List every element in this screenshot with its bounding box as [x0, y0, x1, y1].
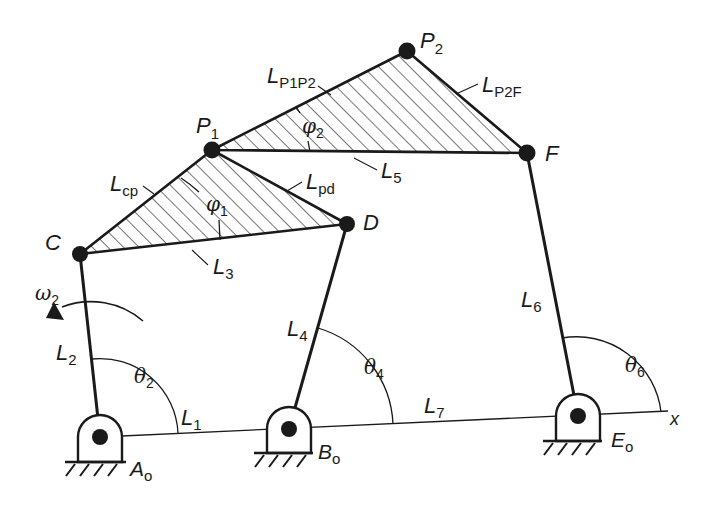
label-Lpd: Lpd: [306, 169, 335, 197]
label-Bo: Bo: [318, 440, 340, 467]
six-bar-linkage-diagram: P2 P1 F D C Ao Bo Eo x LP1P2 LP2F L5 Lcp…: [0, 0, 708, 505]
label-theta2: θ2: [134, 364, 154, 391]
label-L3: L3: [213, 254, 234, 282]
link-L6: [527, 153, 578, 416]
leader-Lcp: [143, 186, 154, 194]
leader-L3: [192, 250, 208, 265]
label-Eo: Eo: [611, 428, 633, 455]
label-P2: P2: [420, 28, 443, 57]
joint-P2: [399, 43, 416, 60]
omega2-arc: [62, 302, 143, 321]
label-L-P1P2: LP1P2: [267, 63, 316, 91]
leader-L5: [354, 158, 377, 170]
joint-D: [339, 216, 355, 232]
label-F: F: [545, 141, 560, 166]
label-P1: P1: [196, 113, 219, 142]
joint-F: [519, 145, 536, 162]
label-D: D: [363, 210, 379, 235]
link-L2: [80, 254, 100, 437]
coupler-triangle-2: [212, 51, 527, 153]
label-L6: L6: [521, 287, 542, 315]
joint-C: [72, 246, 88, 262]
label-L7: L7: [424, 393, 445, 421]
joint-Bo: [281, 421, 297, 437]
joint-Eo: [570, 408, 586, 424]
label-omega2: ω2: [35, 281, 59, 308]
joint-P1: [204, 142, 221, 159]
label-theta6: θ6: [625, 353, 645, 380]
label-Ao: Ao: [128, 457, 152, 484]
ground-pivot-Eo: [543, 394, 602, 455]
label-L1: L1: [181, 405, 202, 433]
label-x-axis: x: [669, 409, 680, 429]
leader-L-P2F: [456, 84, 478, 94]
label-theta4: θ4: [364, 355, 384, 382]
label-Lcp: Lcp: [110, 171, 138, 199]
ground-pivot-Ao: [65, 415, 126, 476]
label-C: C: [45, 230, 61, 255]
leader-Lpd: [287, 182, 302, 191]
joint-Ao: [92, 429, 108, 445]
ground-pivot-Bo: [254, 407, 313, 467]
label-L4: L4: [287, 316, 308, 344]
label-L-P2F: LP2F: [482, 72, 522, 100]
label-L2: L2: [56, 340, 77, 368]
label-L5: L5: [381, 158, 402, 186]
